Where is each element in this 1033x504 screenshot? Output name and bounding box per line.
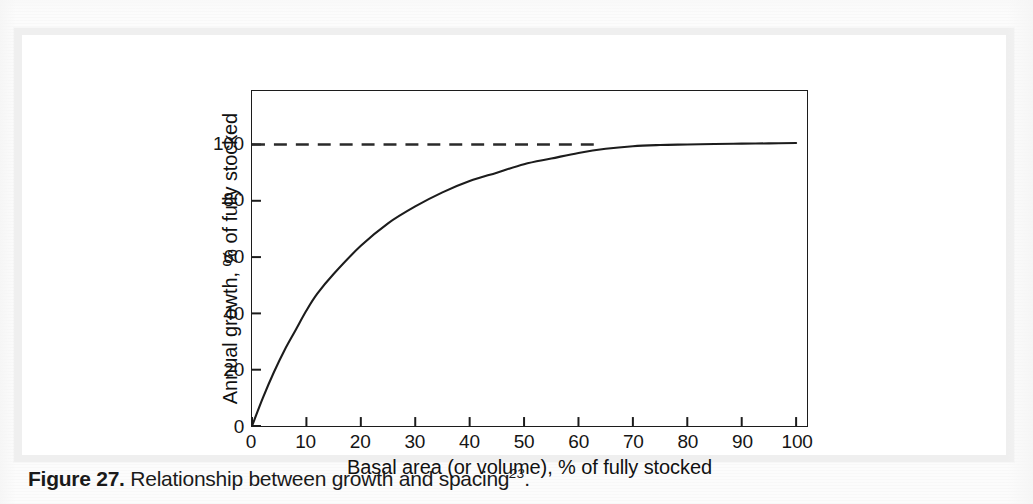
growth-response-curve [252, 143, 796, 426]
y-axis-ticks [252, 144, 261, 426]
y-axis-tick-labels: 100806040200 [192, 90, 244, 427]
x-axis-ticks [252, 417, 796, 426]
plot-canvas [252, 91, 807, 426]
y-tick-label: 40 [223, 303, 244, 325]
plot-area [251, 90, 808, 427]
x-tick-label: 80 [677, 431, 698, 453]
y-tick-label: 0 [234, 416, 244, 438]
x-axis-tick-labels: 0102030405060708090100 [251, 431, 808, 459]
caption-period: . [524, 467, 530, 490]
y-tick-label: 60 [223, 246, 244, 268]
y-tick-label: 100 [213, 133, 244, 155]
x-tick-label: 70 [623, 431, 644, 453]
y-tick-label: 80 [223, 189, 244, 211]
figure-caption: Figure 27. Relationship between growth a… [28, 466, 530, 491]
scanned-page: Annual growth, % of fully stocked 100806… [0, 0, 1033, 504]
x-tick-label: 20 [350, 431, 371, 453]
caption-body: Relationship between growth and spacing [125, 467, 510, 490]
caption-reference-superscript: 23 [509, 466, 524, 481]
x-tick-label: 100 [782, 431, 813, 453]
x-tick-label: 10 [295, 431, 316, 453]
caption-figure-number: Figure 27. [28, 467, 125, 490]
x-tick-label: 40 [459, 431, 480, 453]
figure-panel: Annual growth, % of fully stocked 100806… [22, 35, 1006, 455]
x-tick-label: 30 [404, 431, 425, 453]
x-tick-label: 90 [732, 431, 753, 453]
x-tick-label: 0 [246, 431, 256, 453]
x-tick-label: 50 [514, 431, 535, 453]
y-tick-label: 20 [223, 359, 244, 381]
x-tick-label: 60 [568, 431, 589, 453]
